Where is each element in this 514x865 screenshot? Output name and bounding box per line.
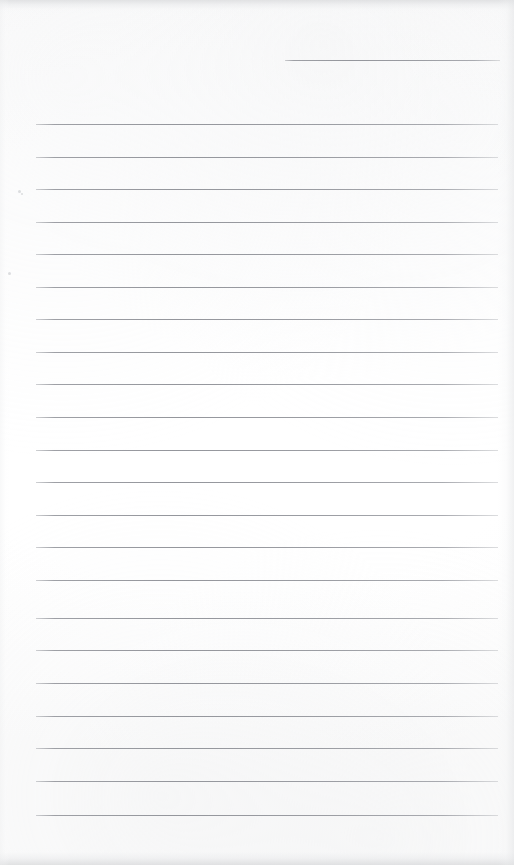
scan-speck <box>21 193 23 195</box>
scan-speck <box>8 272 11 275</box>
page-edge-shadow-left <box>0 0 10 865</box>
rule-line-partial <box>285 60 500 61</box>
rule-line <box>36 384 498 385</box>
rule-line <box>36 748 498 749</box>
rule-line <box>36 683 498 684</box>
page-edge-shadow-top <box>0 0 514 14</box>
rule-line <box>36 352 498 353</box>
rule-line <box>36 650 498 651</box>
rule-line <box>36 417 498 418</box>
rule-line <box>36 189 498 190</box>
rule-line <box>36 254 498 255</box>
scanned-page <box>0 0 514 865</box>
rule-line <box>36 482 498 483</box>
rule-line <box>36 618 498 619</box>
rule-line <box>36 157 498 158</box>
page-edge-shadow-right <box>498 0 514 865</box>
page-edge-shadow-bottom <box>0 847 514 865</box>
rule-line <box>36 815 498 816</box>
rule-line <box>36 580 498 581</box>
rule-line <box>36 319 498 320</box>
rule-line <box>36 124 498 125</box>
scan-grain-overlay <box>0 0 514 865</box>
rule-line <box>36 515 498 516</box>
rule-line <box>36 716 498 717</box>
rule-line <box>36 781 498 782</box>
rule-line <box>36 547 498 548</box>
rule-line <box>36 287 498 288</box>
rule-line <box>36 222 498 223</box>
rule-line <box>36 450 498 451</box>
